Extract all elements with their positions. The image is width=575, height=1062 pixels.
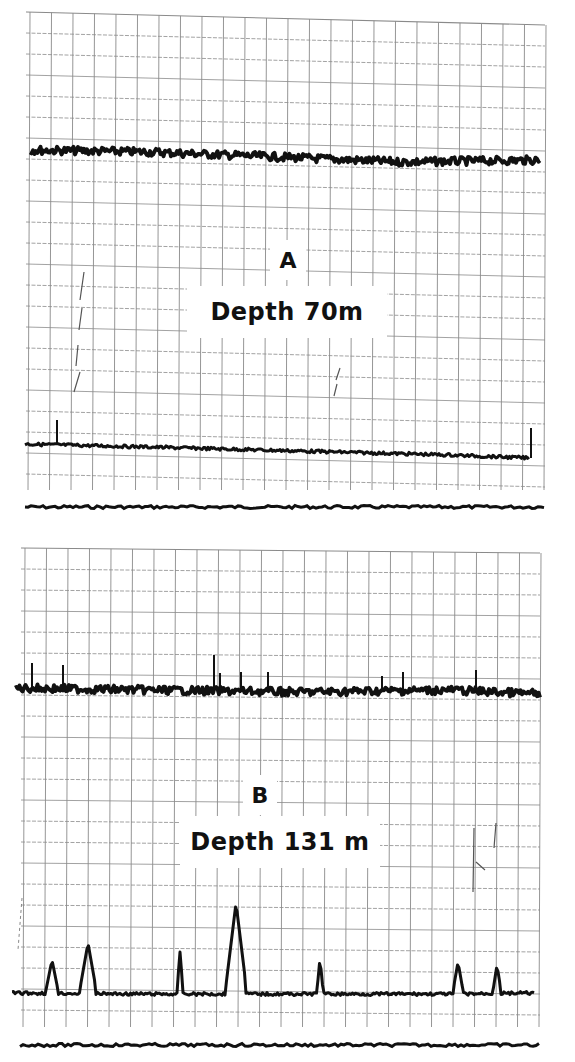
timing-marker-line [20,1044,539,1047]
panel-b-letter: B [243,775,277,815]
panel-b-depth-label: Depth 131 m [180,816,380,868]
panel-a-letter: A [270,240,306,280]
timing-marker-line [25,506,544,509]
strip-chart-figure [0,0,575,1062]
trace-upper-trace [30,147,540,166]
trace-lower-trace [25,420,531,459]
panel-a-depth-label: Depth 70m [187,286,387,338]
grid-lines [21,548,541,1027]
